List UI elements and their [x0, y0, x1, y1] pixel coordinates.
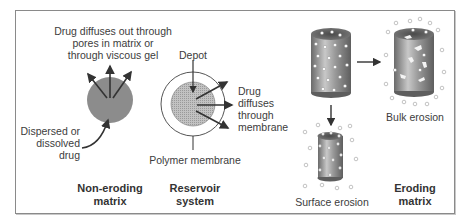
eroding-matrix-title: Eroding matrix — [385, 182, 445, 208]
label-line: dissolved — [16, 137, 80, 149]
dispersed-drug-label: Dispersed or dissolved drug — [16, 125, 80, 161]
title-line: Reservoir — [165, 182, 225, 195]
label-line: membrane — [238, 121, 298, 133]
bulk-erosion-label: Bulk erosion — [380, 111, 450, 123]
label-line: diffuses — [238, 97, 298, 109]
title-line: Non-eroding — [70, 182, 150, 195]
title-line: system — [165, 195, 225, 208]
title-line: Eroding — [385, 182, 445, 195]
label-line: Drug diffuses out through — [48, 25, 178, 37]
surface-erosion-cylinder — [303, 123, 358, 190]
eroding-cylinder-initial — [311, 28, 351, 98]
label-line: Drug — [238, 85, 298, 97]
bulk-erosion-cylinder — [384, 17, 446, 106]
matrix-diffusion-label: Drug diffuses out through pores in matri… — [48, 25, 178, 61]
label-line: pores in matrix or — [48, 37, 178, 49]
label-line: drug — [16, 149, 80, 161]
label-line: through viscous gel — [48, 49, 178, 61]
title-line: matrix — [385, 195, 445, 208]
title-line: matrix — [70, 195, 150, 208]
surface-erosion-label: Surface erosion — [290, 196, 374, 208]
membrane-diffusion-label: Drug diffuses through membrane — [238, 85, 298, 133]
reservoir-system-diagram — [161, 60, 232, 150]
label-line: Dispersed or — [16, 125, 80, 137]
reservoir-system-title: Reservoir system — [165, 182, 225, 208]
label-line: through — [238, 109, 298, 121]
polymer-membrane-label: Polymer membrane — [148, 154, 242, 166]
non-eroding-matrix-sphere — [82, 66, 133, 148]
non-eroding-matrix-title: Non-eroding matrix — [70, 182, 150, 208]
depot-label: Depot — [173, 49, 213, 61]
